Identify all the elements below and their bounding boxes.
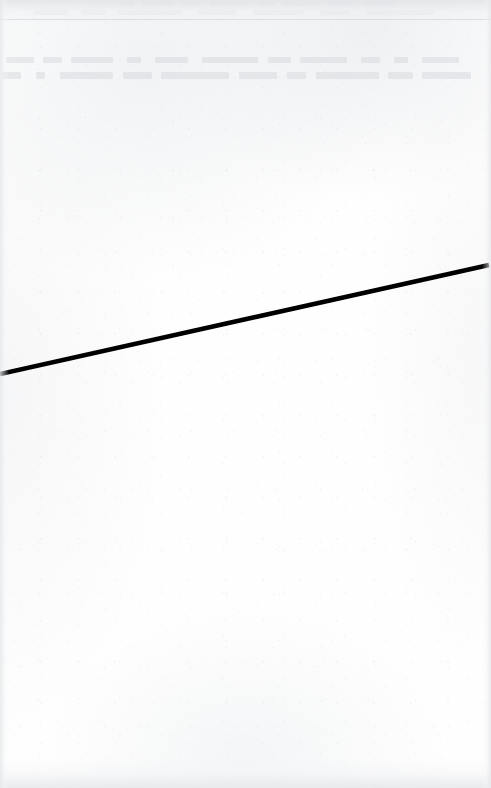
- ghost-text-row: [30, 10, 451, 15]
- top-hairline-rule: [0, 19, 491, 20]
- scan-grain-texture: [0, 0, 491, 788]
- ghost-text-row: [120, 1, 401, 6]
- ghost-text-row: [2, 72, 485, 79]
- ghost-text-row: [6, 57, 473, 63]
- scanned-page: [0, 0, 491, 788]
